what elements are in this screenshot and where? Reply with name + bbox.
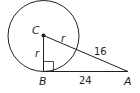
- label-24: 24: [79, 75, 92, 86]
- label-a: A: [123, 75, 132, 88]
- tangent-circle-diagram: C B A r r 16 24: [0, 0, 140, 93]
- label-c: C: [32, 24, 40, 37]
- center-point: [42, 34, 46, 38]
- label-r-slant: r: [61, 33, 66, 44]
- label-r-vertical: r: [35, 48, 40, 59]
- label-b: B: [39, 75, 47, 88]
- label-16: 16: [94, 46, 107, 57]
- segment-ca: [44, 36, 129, 72]
